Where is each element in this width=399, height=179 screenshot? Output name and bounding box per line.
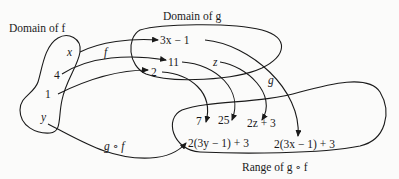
domain-f-element-y: y [41, 112, 46, 124]
domain-f-element-x: x [67, 47, 72, 59]
domain-g-element-2: 2 [151, 67, 157, 79]
range-element-2-3x-1-3: 2(3x − 1) + 3 [274, 139, 335, 151]
arrow-z-to-2z3 [220, 62, 266, 120]
domain-f-title: Domain of f [9, 23, 65, 35]
arrow-x-to-3x-1 [80, 40, 158, 53]
composite-function-diagram: Domain of f Domain of g Range of g ∘ f x… [0, 0, 399, 179]
domain-g-element-3x-1: 3x − 1 [160, 35, 190, 47]
range-element-2-3y-1-3: 2(3y − 1) + 3 [188, 138, 249, 150]
domain-g-title: Domain of g [163, 11, 221, 23]
range-title: Range of g ∘ f [242, 162, 308, 174]
domain-g-element-z: z [213, 57, 217, 69]
arrow-label-g-of-f: g ∘ f [104, 141, 124, 153]
range-element-2z-plus-3: 2z + 3 [247, 118, 276, 130]
arrow-label-f: f [104, 47, 107, 59]
range-element-7: 7 [196, 116, 202, 128]
range-element-25: 25 [218, 115, 230, 127]
domain-g-element-11: 11 [168, 57, 179, 69]
domain-f-element-1: 1 [45, 89, 51, 101]
arrow-11-to-25 [182, 62, 235, 120]
arrow-label-g: g [268, 75, 274, 87]
domain-f-element-4: 4 [54, 70, 60, 82]
